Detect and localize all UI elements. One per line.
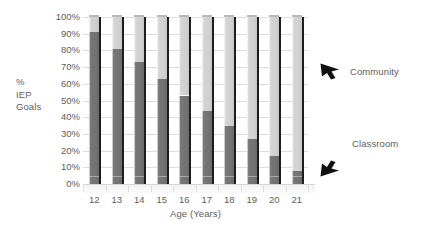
y-axis-tick-label: 50% [50,96,80,106]
bar-segment-classroom [269,156,279,184]
bar-right-edge [279,17,281,184]
bar-left-edge [134,17,135,184]
y-axis-tick-label: 90% [50,29,80,39]
floor-tick [241,184,242,192]
bar-left-edge [292,17,293,184]
bar [269,17,279,184]
bar-segment-community [179,17,189,95]
arrow-icon [318,160,344,178]
bar [224,17,234,184]
bar [89,17,99,184]
bar-right-edge [122,17,124,184]
bar-base-edge [179,176,189,177]
bar-base-edge [89,176,99,177]
bar-left-edge [269,17,270,184]
bar-base-edge [157,176,167,177]
floor-tick [106,184,107,192]
bar-segment-classroom [134,62,144,184]
x-axis-tick-label: 17 [196,194,219,206]
bar-base-edge [112,176,122,177]
annotation-classroom-arrow [318,160,344,178]
floor-tick [218,184,219,192]
bar-top-cap [89,15,99,17]
bar-right-edge [212,17,214,184]
y-axis-tick-label: 30% [50,129,80,139]
bar-right-edge [302,17,304,184]
y-axis-tick-label: 0% [50,179,80,189]
x-axis-tick-label: 20 [263,194,286,206]
bar-left-edge [247,17,248,184]
bar-segment-community [112,17,122,49]
bar-top-cap [247,15,257,17]
bar-segment-community [269,17,279,156]
bar-top-cap [269,15,279,17]
bar [292,17,302,184]
bar [179,17,189,184]
y-axis-tick-label: 40% [50,112,80,122]
x-axis-tick-label: 21 [286,194,309,206]
y-axis-tick-labels: 0%10%20%30%40%50%60%70%80%90%100% [50,0,80,227]
y-axis-tick-label: 80% [50,45,80,55]
y-axis-tick-label: 10% [50,162,80,172]
bar-segment-classroom [89,32,99,184]
bar [112,17,122,184]
floor-tick [286,184,287,192]
bar-base-edge [269,176,279,177]
plot-floor-ticks [83,184,315,193]
bar-segment-classroom [157,79,167,184]
bar-left-edge [202,17,203,184]
x-axis-tick-label: 14 [128,194,151,206]
y-axis-tick-label: 100% [50,12,80,22]
bar-base-edge [292,176,302,177]
bar-segment-community [202,17,212,111]
bar-left-edge [179,17,180,184]
x-axis-tick-label: 12 [83,194,106,206]
bar-left-edge [157,17,158,184]
bar-left-edge [224,17,225,184]
bar-segment-community [292,17,302,171]
x-axis-tick-labels: 12131415161718192021 [83,194,308,208]
bar-segment-classroom [202,111,212,184]
annotation-community-label: Community [350,66,399,77]
bar-left-edge [112,17,113,184]
floor-tick [308,184,309,192]
bar-segment-community [224,17,234,126]
bar-top-cap [224,15,234,17]
bar-group [83,17,308,184]
bar-base-edge [247,176,257,177]
bar-right-edge [257,17,259,184]
floor-tick [151,184,152,192]
x-axis-tick-label: 19 [241,194,264,206]
bar-right-edge [144,17,146,184]
bar-segment-community [134,17,144,62]
bar-segment-community [247,17,257,139]
bar [134,17,144,184]
bar-top-cap [179,15,189,17]
y-axis-tick-label: 70% [50,62,80,72]
bar [157,17,167,184]
x-axis-title: Age (Years) [83,208,308,219]
x-axis-tick-label: 15 [151,194,174,206]
bar-segment-classroom [224,126,234,184]
y-axis-tick-label: 60% [50,79,80,89]
bar-base-edge [202,176,212,177]
bar-right-edge [234,17,236,184]
stacked-bar-chart: % IEP Goals 0%10%20%30%40%50%60%70%80%90… [0,0,421,227]
y-axis-tick-label: 20% [50,146,80,156]
bar-base-edge [134,176,144,177]
bar-left-edge [89,17,90,184]
bar-segment-community [89,17,99,32]
bar-segment-classroom [112,49,122,184]
bar-top-cap [292,15,302,17]
bar-top-cap [157,15,167,17]
annotation-classroom-label: Classroom [352,138,398,149]
annotation-community: Community [318,62,399,80]
bar-right-edge [167,17,169,184]
floor-tick [173,184,174,192]
bar-top-cap [202,15,212,17]
x-axis-tick-label: 18 [218,194,241,206]
annotation-classroom: Classroom [352,138,398,149]
floor-tick [128,184,129,192]
bar-top-cap [134,15,144,17]
x-axis-tick-label: 13 [106,194,129,206]
